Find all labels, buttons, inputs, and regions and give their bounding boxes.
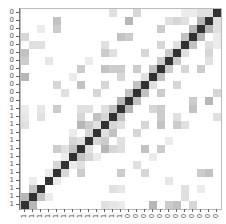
heatmap-cell xyxy=(101,137,109,145)
x-tick-mark xyxy=(200,209,201,212)
heatmap-cell xyxy=(109,129,117,137)
heatmap-cell xyxy=(197,17,205,25)
heatmap-diagonal-cell xyxy=(101,121,109,129)
x-tick-mark xyxy=(40,209,41,212)
heatmap-cell xyxy=(109,49,117,57)
heatmap-cell xyxy=(69,137,77,145)
x-tick-mark xyxy=(80,209,81,212)
x-tick-label: 0 xyxy=(132,212,140,220)
heatmap-cell xyxy=(77,113,85,121)
x-tick-mark xyxy=(192,209,193,212)
heatmap-cell xyxy=(213,33,221,41)
y-tick-label: 0 xyxy=(4,16,14,24)
heatmap-cell xyxy=(77,65,85,73)
heatmap-cell xyxy=(93,137,101,145)
heatmap-cell xyxy=(69,145,77,153)
heatmap-cell xyxy=(149,201,157,209)
y-tick-mark xyxy=(16,68,20,69)
y-tick-label: 0 xyxy=(4,32,14,40)
y-tick-mark xyxy=(16,76,20,77)
heatmap-cell xyxy=(69,161,77,169)
x-tick-mark xyxy=(24,209,25,212)
heatmap-cell xyxy=(85,121,93,129)
heatmap-cell xyxy=(157,113,165,121)
heatmap-cell xyxy=(205,25,213,33)
y-tick-label: 0 xyxy=(4,72,14,80)
heatmap-diagonal-cell xyxy=(21,201,29,209)
y-tick-mark xyxy=(16,196,20,197)
x-tick-label: 1 xyxy=(36,212,44,220)
heatmap-cell xyxy=(205,49,213,57)
x-tick-mark xyxy=(128,209,129,212)
x-tick-mark xyxy=(216,209,217,212)
heatmap-cell xyxy=(125,89,133,97)
heatmap-cell xyxy=(213,41,221,49)
heatmap-cell xyxy=(37,25,45,33)
heatmap-cell xyxy=(37,41,45,49)
heatmap-cell xyxy=(109,145,117,153)
y-tick-mark xyxy=(16,148,20,149)
heatmap-diagonal-cell xyxy=(117,105,125,113)
heatmap-cell xyxy=(21,121,29,129)
x-tick-label: 0 xyxy=(212,212,220,220)
heatmap-cell xyxy=(165,17,173,25)
y-tick-label: 1 xyxy=(4,200,14,208)
heatmap-cell xyxy=(213,89,221,97)
heatmap-diagonal-cell xyxy=(205,17,213,25)
y-tick-mark xyxy=(16,92,20,93)
x-tick-mark xyxy=(136,209,137,212)
heatmap-cell xyxy=(77,169,85,177)
y-tick-mark xyxy=(16,132,20,133)
heatmap-cell xyxy=(109,105,117,113)
heatmap-cell xyxy=(21,105,29,113)
heatmap-cell xyxy=(37,105,45,113)
heatmap-cell xyxy=(21,57,29,65)
heatmap-cell xyxy=(101,49,109,57)
heatmap-cell xyxy=(197,33,205,41)
y-tick-mark xyxy=(16,180,20,181)
heatmap-cell xyxy=(21,193,29,201)
heatmap-cell xyxy=(117,137,125,145)
heatmap-diagonal-cell xyxy=(197,25,205,33)
heatmap-cell xyxy=(141,73,149,81)
heatmap-cell xyxy=(205,41,213,49)
heatmap-cell xyxy=(205,169,213,177)
heatmap-cell xyxy=(69,73,77,81)
heatmap-cell xyxy=(85,145,93,153)
heatmap-cell xyxy=(117,201,125,209)
heatmap-cell xyxy=(85,57,93,65)
x-tick-label: 0 xyxy=(148,212,156,220)
heatmap-cell xyxy=(141,89,149,97)
heatmap-cell xyxy=(213,25,221,33)
x-tick-label: 0 xyxy=(196,212,204,220)
heatmap-cell xyxy=(77,161,85,169)
y-tick-mark xyxy=(16,116,20,117)
x-tick-mark xyxy=(168,209,169,212)
heatmap-cell xyxy=(165,177,173,185)
heatmap-cell xyxy=(157,89,165,97)
heatmap-diagonal-cell xyxy=(37,185,45,193)
heatmap-cell xyxy=(197,185,205,193)
heatmap-cell xyxy=(181,193,189,201)
x-tick-mark xyxy=(104,209,105,212)
heatmap-cell xyxy=(117,65,125,73)
heatmap-cell xyxy=(53,145,61,153)
y-tick-label: 1 xyxy=(4,192,14,200)
y-tick-mark xyxy=(16,124,20,125)
heatmap-diagonal-cell xyxy=(189,33,197,41)
y-tick-mark xyxy=(16,28,20,29)
heatmap-cell xyxy=(173,201,181,209)
heatmap-cell xyxy=(181,9,189,17)
heatmap-cell xyxy=(109,9,117,17)
x-tick-mark xyxy=(152,209,153,212)
heatmap-cell xyxy=(125,17,133,25)
heatmap-cell xyxy=(189,9,197,17)
x-tick-label: 1 xyxy=(76,212,84,220)
y-tick-label: 0 xyxy=(4,64,14,72)
y-tick-mark xyxy=(16,204,20,205)
heatmap-cell xyxy=(117,113,125,121)
y-tick-mark xyxy=(16,20,20,21)
heatmap-cell xyxy=(173,17,181,25)
heatmap-diagonal-cell xyxy=(93,129,101,137)
x-tick-mark xyxy=(144,209,145,212)
